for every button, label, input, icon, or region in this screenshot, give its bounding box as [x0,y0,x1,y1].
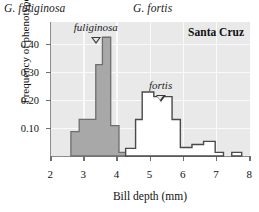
x-tick: 3 [83,156,84,161]
x-tick-label: 5 [147,168,153,180]
plot-area: 0.10 0.20 0.30 0.40 2 3 4 5 6 7 8 [50,22,250,157]
x-tick: 6 [183,156,184,161]
y-tick-label: 0.30 [21,67,39,78]
annotation-label-fuliginosa: fuliginosa [74,21,118,33]
x-tick-label: 3 [80,168,86,180]
marker-triangle-fuliginosa [91,37,101,44]
x-tick-label: 7 [213,168,219,180]
y-axis-title: Frequency of phenotype [19,0,31,130]
y-tick-label: 0.10 [21,123,39,134]
figure-histogram-bill-depth: G. fuliginosa G. fortis Frequency of phe… [0,0,259,212]
species-caption-fuliginosa: G. fuliginosa [4,2,65,14]
histogram-series-fuliginosa [71,37,127,156]
x-tick: 4 [116,156,117,161]
x-tick: 7 [216,156,217,161]
y-tick-label: 0.20 [21,95,39,106]
x-tick: 5 [150,156,151,161]
x-tick-label: 4 [114,168,120,180]
histogram-series-fortis [126,92,242,156]
x-axis-title: Bill depth (mm) [50,190,250,202]
site-label: Santa Cruz [188,26,244,38]
x-tick-label: 2 [48,168,54,180]
y-tick-label: 0.40 [21,39,39,50]
x-tick-label: 8 [246,168,252,180]
x-tick-label: 6 [180,168,186,180]
annotation-label-fortis: fortis [149,79,172,91]
species-caption-fortis: G. fortis [133,2,172,14]
marker-triangle-fortis [156,95,166,102]
x-tick: 2 [50,156,51,161]
x-tick: 8 [249,156,250,161]
